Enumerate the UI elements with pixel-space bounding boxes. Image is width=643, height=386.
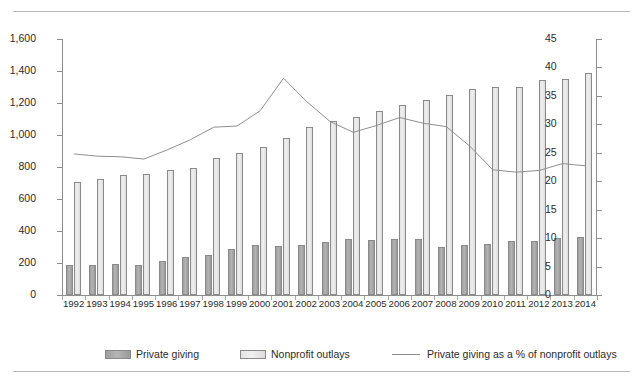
x-axis-label: 1995 [132, 299, 155, 309]
x-axis-label: 2013 [550, 299, 573, 309]
x-axis-label: 1993 [85, 299, 108, 309]
x-axis-label: 2002 [295, 299, 318, 309]
right-axis-tick-label: 15 [545, 204, 557, 215]
legend-swatch-private-giving-icon [105, 350, 131, 359]
plot-area [62, 39, 597, 295]
x-axis-label: 1999 [225, 299, 248, 309]
right-axis-tick [597, 181, 602, 182]
percent-line-series [62, 39, 597, 295]
left-axis-tick-label: 0 [30, 289, 36, 300]
right-axis-tick [597, 96, 602, 97]
x-axis-label: 2008 [434, 299, 457, 309]
right-axis-tick-label: 30 [545, 118, 557, 129]
right-axis-tick [597, 267, 602, 268]
x-axis-label: 2006 [388, 299, 411, 309]
chart-legend: Private giving Nonprofit outlays Private… [0, 347, 643, 363]
x-axis-label: 2003 [318, 299, 341, 309]
x-axis-label: 2000 [248, 299, 271, 309]
x-axis-label: 2005 [364, 299, 387, 309]
right-axis-tick-label: 25 [545, 147, 557, 158]
right-axis-tick [597, 238, 602, 239]
legend-item-nonprofit-outlays: Nonprofit outlays [240, 347, 350, 361]
x-axis-label: 2009 [457, 299, 480, 309]
x-axis-label: 2011 [504, 299, 527, 309]
right-axis-tick-label: 5 [545, 261, 551, 272]
left-axis-tick-label: 600 [18, 193, 36, 204]
left-axis-tick-label: 1,000 [10, 129, 36, 140]
right-axis-tick [597, 210, 602, 211]
right-axis-tick-label: 10 [545, 232, 557, 243]
legend-swatch-nonprofit-outlays-icon [240, 350, 266, 359]
right-axis-tick-label: 20 [545, 175, 557, 186]
chart-figure: 02004006008001,0001,2001,4001,600 051015… [0, 0, 643, 386]
x-axis-label: 1998 [202, 299, 225, 309]
x-axis-label: 1992 [62, 299, 85, 309]
x-axis-label: 2012 [527, 299, 550, 309]
x-axis-label: 2004 [341, 299, 364, 309]
left-axis-tick-label: 200 [18, 257, 36, 268]
right-axis-tick-label: 40 [545, 61, 557, 72]
x-axis-labels: 1992199319941995199619971998199920002001… [62, 299, 597, 313]
x-axis-label: 2014 [574, 299, 597, 309]
left-axis-tick-label: 400 [18, 225, 36, 236]
legend-swatch-percent-line-icon [392, 354, 420, 355]
legend-item-percent-line: Private giving as a % of nonprofit outla… [392, 347, 617, 361]
x-axis-tick [597, 296, 598, 300]
left-axis-tick-label: 800 [18, 161, 36, 172]
x-axis-label: 1996 [155, 299, 178, 309]
right-axis-tick [597, 39, 602, 40]
x-axis-label: 1997 [178, 299, 201, 309]
bottom-axis-line [62, 295, 597, 296]
legend-label-private-giving: Private giving [136, 349, 199, 360]
x-axis-label: 2010 [481, 299, 504, 309]
x-axis-label: 1994 [109, 299, 132, 309]
right-axis-tick [597, 67, 602, 68]
left-axis-tick-label: 1,200 [10, 97, 36, 108]
x-axis-label: 2007 [411, 299, 434, 309]
left-axis-tick-label: 1,400 [10, 65, 36, 76]
bottom-divider-rule [13, 371, 630, 372]
legend-label-nonprofit-outlays: Nonprofit outlays [271, 349, 350, 360]
right-axis-tick-label: 35 [545, 90, 557, 101]
right-axis-tick-label: 45 [545, 33, 557, 44]
legend-label-percent-line: Private giving as a % of nonprofit outla… [427, 349, 617, 360]
x-axis-label: 2001 [271, 299, 294, 309]
right-axis-tick [597, 124, 602, 125]
left-axis-tick-label: 1,600 [10, 33, 36, 44]
legend-item-private-giving: Private giving [105, 347, 199, 361]
right-axis-tick [597, 153, 602, 154]
top-divider-rule [13, 11, 630, 12]
